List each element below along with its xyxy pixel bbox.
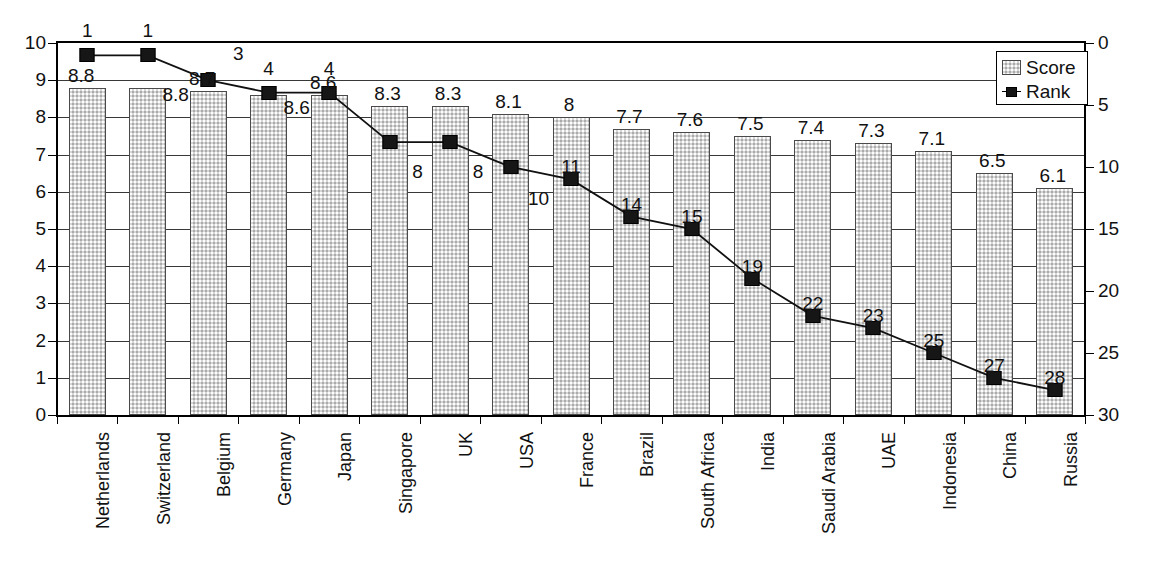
left-axis-tick [48, 80, 57, 81]
rank-value-label: 4 [324, 59, 335, 78]
rank-value-label: 14 [621, 195, 642, 214]
left-axis-tick-label: 5 [35, 219, 46, 238]
left-axis-tick [48, 303, 57, 304]
category-label: Singapore [397, 432, 415, 514]
category-tick [480, 415, 481, 424]
right-axis-tick [1085, 353, 1094, 354]
category-label: Germany [276, 432, 294, 506]
bar-score [673, 132, 710, 415]
category-label: Indonesia [941, 432, 959, 510]
category-label: China [1001, 432, 1019, 479]
score-value-label: 7.6 [677, 110, 703, 129]
left-axis-tick [48, 229, 57, 230]
category-tick [601, 415, 602, 424]
category-tick [843, 415, 844, 424]
category-label: South Africa [699, 432, 717, 529]
bar-score [250, 95, 287, 415]
score-value-label: 8.7 [189, 69, 215, 88]
right-axis-tick-label: 0 [1098, 33, 1109, 52]
bar-score [371, 106, 408, 415]
score-value-label: 8.3 [435, 84, 461, 103]
right-axis-tick [1085, 105, 1094, 106]
category-tick [178, 415, 179, 424]
category-tick [117, 415, 118, 424]
category-tick [57, 415, 58, 424]
rank-marker [382, 135, 397, 149]
bar-score [311, 95, 348, 415]
category-tick [904, 415, 905, 424]
left-axis-tick [48, 266, 57, 267]
category-tick [359, 415, 360, 424]
right-axis-tick-label: 5 [1098, 95, 1109, 114]
right-axis-tick-label: 20 [1098, 281, 1119, 300]
x-axis-line [56, 415, 1086, 417]
right-axis-tick [1085, 291, 1094, 292]
left-axis-tick-label: 10 [25, 33, 46, 52]
bar-score [855, 143, 892, 415]
score-value-label: 7.4 [798, 118, 824, 137]
right-axis-tick-label: 30 [1098, 405, 1119, 424]
rank-value-label: 1 [82, 21, 93, 40]
bar-score [794, 140, 831, 415]
score-value-label: 8.8 [162, 85, 188, 104]
score-value-label: 7.7 [616, 107, 642, 126]
category-tick [722, 415, 723, 424]
right-axis-tick [1085, 43, 1094, 44]
rank-value-label: 23 [863, 306, 884, 325]
left-axis-tick-label: 1 [35, 368, 46, 387]
plot-top-border [56, 41, 1086, 43]
left-axis-tick-label: 9 [35, 70, 46, 89]
rank-marker [261, 86, 276, 100]
chart-legend: Score Rank [996, 51, 1088, 105]
left-axis-tick-label: 7 [35, 145, 46, 164]
bar-score [915, 151, 952, 415]
legend-entry-rank: Rank [1002, 79, 1087, 103]
right-axis-tick [1085, 229, 1094, 230]
rank-value-label: 8 [412, 162, 423, 181]
left-axis-tick-label: 0 [35, 405, 46, 424]
right-axis-tick-label: 15 [1098, 219, 1119, 238]
left-axis-tick [48, 117, 57, 118]
rank-value-label: 19 [742, 257, 763, 276]
left-axis-tick [48, 415, 57, 416]
right-axis-tick [1085, 415, 1094, 416]
score-value-label: 7.3 [858, 121, 884, 140]
category-label: Saudi Arabia [820, 432, 838, 534]
right-axis-tick [1085, 167, 1094, 168]
rank-value-label: 22 [802, 294, 823, 313]
left-axis-tick-label: 4 [35, 256, 46, 275]
rank-value-label: 27 [984, 356, 1005, 375]
legend-entry-score: Score [1002, 55, 1087, 79]
score-value-label: 8.3 [374, 84, 400, 103]
left-axis-tick-label: 8 [35, 107, 46, 126]
category-label: UK [457, 432, 475, 457]
category-label: India [759, 432, 777, 471]
rank-marker [503, 160, 518, 174]
rank-value-label: 10 [528, 189, 549, 208]
rank-value-label: 1 [142, 21, 153, 40]
category-label: Russia [1062, 432, 1080, 487]
score-value-label: 7.5 [737, 114, 763, 133]
category-tick [783, 415, 784, 424]
bar-score [69, 88, 106, 415]
category-tick [1085, 415, 1086, 424]
left-axis-tick [48, 192, 57, 193]
left-axis-tick-label: 2 [35, 331, 46, 350]
legend-label-rank: Rank [1026, 82, 1070, 101]
category-tick [541, 415, 542, 424]
category-label: Netherlands [94, 432, 112, 529]
category-label: USA [518, 432, 536, 469]
rank-marker [140, 48, 155, 62]
score-value-label: 6.5 [979, 151, 1005, 170]
category-label: Brazil [638, 432, 656, 477]
category-label: Switzerland [155, 432, 173, 525]
score-value-label: 8.8 [68, 66, 94, 85]
bar-score [190, 91, 227, 415]
left-axis-tick [48, 155, 57, 156]
rank-value-label: 25 [923, 331, 944, 350]
bar-score [492, 114, 529, 415]
left-axis-tick [48, 43, 57, 44]
rank-value-label: 11 [561, 157, 581, 176]
right-axis-tick-label: 10 [1098, 157, 1119, 176]
category-label: Japan [336, 432, 354, 481]
